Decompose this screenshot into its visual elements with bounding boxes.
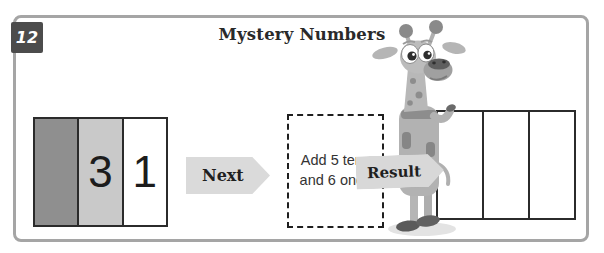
result-cell-tens[interactable]	[482, 112, 528, 218]
next-button[interactable]: Next	[186, 157, 270, 194]
result-label: Result	[355, 153, 444, 189]
question-number: 12	[16, 28, 38, 47]
result-cell-ones[interactable]	[528, 112, 574, 218]
place-value-box: 3 1	[33, 117, 168, 227]
place-value-cell-tens: 3	[77, 119, 121, 225]
place-value-cell-ones: 1	[122, 119, 166, 225]
place-value-cell-hundreds	[35, 119, 77, 225]
result-label-text: Result	[367, 162, 422, 182]
next-button-label: Next	[202, 166, 244, 185]
question-number-badge: 12	[11, 22, 43, 53]
screen: 12 Mystery Numbers 3 1 Next Add 5 tens a…	[0, 0, 604, 253]
giraffe-mascot-illustration	[368, 14, 478, 240]
